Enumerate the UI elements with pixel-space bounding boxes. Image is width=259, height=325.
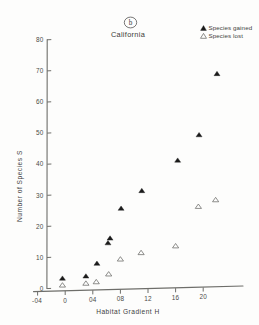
y-ticklabel-70: 70 — [36, 67, 44, 74]
legend-item-species-lost: Species lost — [201, 32, 244, 39]
x-ticklabel-12: 12 — [144, 295, 152, 302]
x-ticklabel-neg04: -04 — [32, 297, 42, 304]
open-triangle-marker — [173, 243, 179, 247]
open-triangle-marker — [117, 257, 123, 261]
open-triangle-marker — [93, 279, 99, 283]
open-triangle-marker — [195, 204, 201, 208]
y-ticklabel-20: 20 — [36, 223, 44, 230]
y-axis-title: Number of Species S — [16, 150, 24, 222]
filled-triangle-marker — [214, 71, 220, 75]
legend: Species gained Species lost — [201, 24, 253, 39]
filled-triangle-marker — [83, 274, 89, 278]
x-ticklabel-04: 04 — [89, 296, 97, 303]
x-ticklabel-08: 08 — [117, 295, 125, 302]
filled-triangle-marker — [94, 261, 100, 265]
series-species-lost — [59, 197, 218, 287]
panel-letter: b — [129, 19, 133, 27]
legend-label-species-lost: Species lost — [209, 32, 244, 39]
filled-triangle-marker — [118, 206, 124, 210]
legend-item-species-gained: Species gained — [201, 24, 253, 31]
data-markers-layer — [59, 71, 220, 287]
open-triangle-marker — [59, 283, 65, 287]
legend-label-species-gained: Species gained — [209, 24, 253, 31]
open-triangle-marker — [106, 272, 112, 276]
y-ticklabel-50: 50 — [36, 129, 44, 136]
filled-triangle-marker — [107, 236, 113, 240]
panel-region-name: California — [111, 30, 146, 39]
y-ticklabel-80: 80 — [36, 36, 44, 43]
x-axis: -04 0 04 08 12 16 20 Habitat Gradient H — [32, 286, 243, 315]
open-triangle-marker — [138, 250, 144, 254]
y-ticklabel-60: 60 — [36, 98, 44, 105]
y-ticklabel-30: 30 — [36, 192, 44, 199]
filled-triangle-icon — [201, 26, 207, 31]
y-ticklabel-10: 10 — [36, 254, 44, 261]
x-ticklabel-16: 16 — [172, 294, 180, 301]
open-triangle-icon — [201, 33, 207, 38]
open-triangle-marker — [213, 197, 219, 201]
figure-panel: b California Species gained Species lost — [0, 0, 259, 325]
y-axis: 80 70 60 50 40 30 20 10 0 Number of Spec… — [16, 36, 51, 292]
filled-triangle-marker — [105, 241, 111, 245]
scatter-chart: b California Species gained Species lost — [0, 0, 259, 325]
series-species-gained — [59, 71, 220, 280]
panel-label-group: b California — [111, 17, 146, 39]
filled-triangle-marker — [59, 276, 65, 280]
x-ticklabel-0: 0 — [63, 297, 67, 304]
y-ticklabel-0: 0 — [40, 285, 44, 292]
filled-triangle-marker — [139, 188, 145, 192]
filled-triangle-marker — [196, 132, 202, 136]
open-triangle-marker — [83, 281, 89, 285]
filled-triangle-marker — [175, 158, 181, 162]
x-ticklabel-20: 20 — [199, 293, 207, 300]
x-axis-title: Habitat Gradient H — [96, 308, 160, 315]
y-ticklabel-40: 40 — [36, 160, 44, 167]
